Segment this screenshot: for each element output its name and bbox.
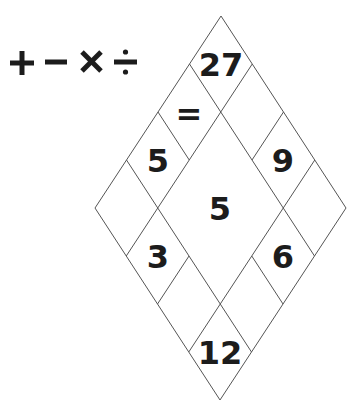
cell-r1c0[interactable]: = (176, 95, 203, 133)
cell-r2c0[interactable]: 5 (147, 142, 169, 180)
puzzle-board: 27 9 = 6 5 3 12 5 (0, 0, 349, 406)
times-icon (82, 52, 101, 71)
cell-r0c0[interactable]: 27 (199, 46, 244, 84)
cell-center[interactable]: 5 (209, 190, 231, 228)
cell-r3c1[interactable]: 3 (147, 238, 169, 276)
operator-legend (10, 49, 137, 75)
plus-icon (10, 51, 34, 75)
divide-icon (114, 49, 137, 74)
cell-r0c2[interactable]: 9 (272, 142, 294, 180)
cell-r1c3[interactable]: 6 (272, 238, 294, 276)
cell-r3c3[interactable]: 12 (198, 334, 243, 372)
